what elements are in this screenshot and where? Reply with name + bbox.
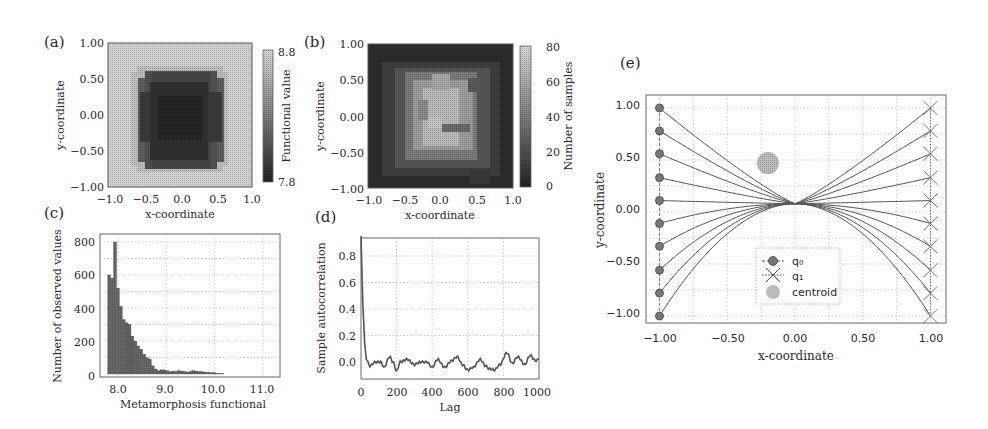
q0-marker [656, 312, 664, 320]
panel-label: (c) [44, 204, 64, 222]
svg-text:11.0: 11.0 [250, 383, 275, 396]
panel-c: (c) 800 600 400 200 0 8.0 9.0 10.0 11.0 … [44, 204, 280, 411]
svg-text:1.00: 1.00 [616, 99, 641, 112]
colorbar-max-label: 8.8 [278, 46, 296, 59]
svg-text:1.0: 1.0 [243, 193, 261, 206]
legend-q1-label: q₁ [792, 270, 803, 283]
colorbar-label: Number of samples [562, 61, 575, 170]
svg-text:0.6: 0.6 [339, 277, 357, 290]
svg-text:1.00: 1.00 [919, 332, 944, 345]
svg-text:−1.00: −1.00 [643, 332, 677, 345]
svg-text:8.0: 8.0 [109, 383, 127, 396]
x-axis-label: x-coordinate [145, 208, 215, 221]
svg-text:−1.0: −1.0 [356, 194, 383, 207]
y-axis-label: y-coordinate [593, 172, 607, 249]
panel-label: (a) [44, 33, 65, 51]
svg-text:0.50: 0.50 [340, 74, 365, 87]
x-axis-label: Metamorphosis functional [120, 398, 267, 411]
svg-text:−0.5: −0.5 [392, 194, 419, 207]
y-axis-ticks: 0.8 0.6 0.4 0.2 0.0 [339, 250, 357, 369]
panel-label: (b) [304, 33, 325, 51]
q0-marker [656, 104, 664, 112]
q0-marker [656, 242, 664, 250]
svg-text:200: 200 [74, 336, 95, 349]
legend-q0-label: q₀ [792, 255, 804, 268]
y-axis-ticks: 800 600 400 200 0 [74, 236, 95, 383]
svg-text:9.0: 9.0 [156, 383, 174, 396]
svg-text:0.00: 0.00 [80, 109, 105, 122]
svg-text:40: 40 [546, 111, 560, 124]
svg-text:0.00: 0.00 [340, 111, 365, 124]
svg-text:1000: 1000 [523, 386, 551, 399]
q0-marker [656, 150, 664, 158]
svg-text:0.0: 0.0 [431, 194, 449, 207]
svg-text:0.5: 0.5 [209, 193, 227, 206]
q0-legend-icon [769, 257, 778, 266]
y-axis-ticks: 1.00 0.50 0.00 −0.50 −1.00 [330, 38, 364, 196]
x-axis-label: Lag [440, 401, 461, 414]
svg-text:200: 200 [387, 386, 408, 399]
panel-label: (d) [315, 208, 336, 226]
q0-marker [656, 289, 664, 297]
svg-text:800: 800 [74, 236, 95, 249]
svg-text:0.4: 0.4 [339, 303, 357, 316]
svg-text:1.00: 1.00 [80, 37, 105, 50]
svg-text:600: 600 [74, 269, 95, 282]
svg-text:1.0: 1.0 [504, 194, 522, 207]
y-axis-label: Number of observed values [51, 229, 64, 383]
svg-text:−0.50: −0.50 [606, 255, 640, 268]
y-axis-label: Sample autocorrelation [315, 242, 328, 373]
y-axis-ticks: 1.00 0.50 0.00 −0.50 −1.00 [70, 37, 104, 194]
svg-text:0.0: 0.0 [339, 356, 357, 369]
centroid-legend-icon [766, 285, 780, 299]
svg-text:10.0: 10.0 [201, 383, 226, 396]
svg-text:400: 400 [422, 386, 443, 399]
panel-label: (e) [620, 54, 641, 72]
x-axis-ticks: 0 200 400 600 800 1000 [358, 386, 552, 399]
svg-text:0.2: 0.2 [339, 330, 357, 343]
svg-text:0.5: 0.5 [468, 194, 486, 207]
svg-text:0: 0 [546, 180, 553, 193]
svg-text:400: 400 [74, 303, 95, 316]
svg-text:600: 600 [458, 386, 479, 399]
svg-text:−0.50: −0.50 [330, 147, 364, 160]
x-axis-ticks: −1.00 −0.50 0.00 0.50 1.00 [643, 332, 943, 345]
legend-centroid-label: centroid [792, 286, 837, 299]
x-axis-ticks: −1.0 −0.5 0.0 0.5 1.0 [97, 193, 261, 206]
svg-text:0.0: 0.0 [173, 193, 191, 206]
colorbar-min-label: 7.8 [278, 176, 296, 189]
x-axis-ticks: 8.0 9.0 10.0 11.0 [109, 383, 274, 396]
panel-b: (b) 1.00 0.50 0.00 −0.50 −1.00 −1.0 −0.5 [304, 33, 575, 222]
svg-text:1.00: 1.00 [340, 38, 365, 51]
svg-text:0: 0 [358, 386, 365, 399]
x-axis-ticks: −1.0 −0.5 0.0 0.5 1.0 [356, 194, 522, 207]
q0-marker [656, 266, 664, 274]
svg-text:0.8: 0.8 [339, 250, 357, 263]
svg-text:0.00: 0.00 [616, 203, 641, 216]
panel-e: (e) q₀ q₁ centroid 1.00 0.50 0.00 −0.50 … [593, 54, 946, 363]
colorbar-label: Functional value [280, 69, 293, 162]
x-axis-label: x-coordinate [758, 349, 834, 363]
legend: q₀ q₁ centroid [756, 248, 840, 304]
svg-text:0: 0 [88, 370, 95, 383]
colorbar-ticks: 80 60 40 20 0 [546, 41, 560, 193]
svg-text:60: 60 [546, 76, 560, 89]
figure: (a) 1.00 0.50 0.00 −0.50 −1.00 −1.0 −0.5… [0, 0, 988, 429]
y-axis-ticks: 1.00 0.50 0.00 −0.50 −1.00 [606, 99, 640, 320]
svg-text:−0.50: −0.50 [711, 332, 745, 345]
svg-text:−1.00: −1.00 [606, 307, 640, 320]
svg-text:−0.50: −0.50 [70, 145, 104, 158]
panel-d: (d) 0.8 0.6 0.4 0.2 0.0 0 200 400 600 80… [315, 208, 551, 414]
svg-text:0.50: 0.50 [80, 73, 105, 86]
y-axis-label: y-coordinate [54, 80, 67, 151]
x-axis-label: x-coordinate [405, 209, 475, 222]
svg-text:0.00: 0.00 [783, 332, 808, 345]
y-axis-label: y-coordinate [314, 81, 327, 152]
q0-marker [656, 174, 664, 182]
panel-a: (a) 1.00 0.50 0.00 −0.50 −1.00 −1.0 −0.5… [44, 33, 296, 221]
svg-text:80: 80 [546, 41, 560, 54]
q0-marker [656, 219, 664, 227]
svg-text:0.50: 0.50 [616, 151, 641, 164]
svg-text:0.50: 0.50 [851, 332, 876, 345]
svg-text:−0.5: −0.5 [133, 193, 160, 206]
